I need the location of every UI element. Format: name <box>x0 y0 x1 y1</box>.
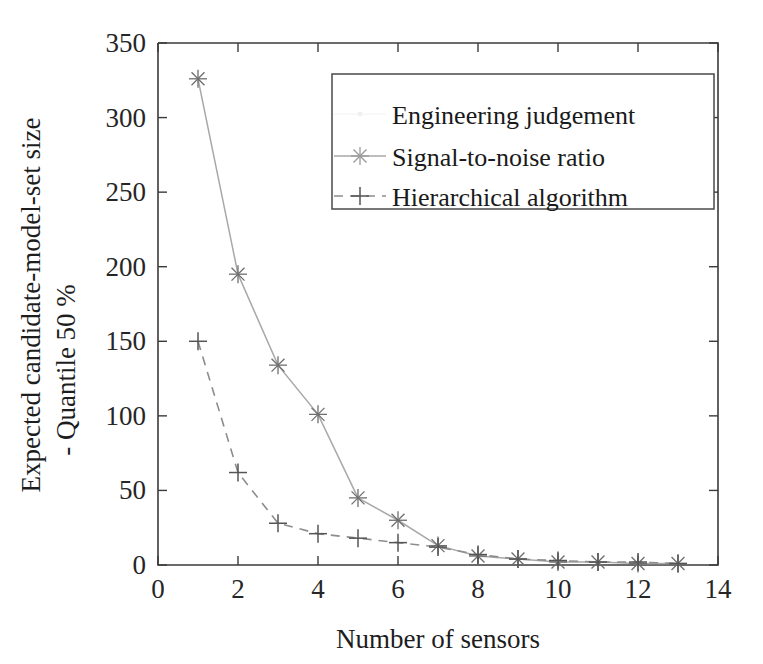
y-tick-label: 200 <box>106 252 147 282</box>
y-tick-label: 300 <box>106 103 147 133</box>
y-tick-label: 100 <box>106 401 147 431</box>
x-tick-label: 8 <box>471 574 485 604</box>
x-tick-label: 2 <box>231 574 245 604</box>
figure-container: 02468101214 050100150200250300350 Number… <box>0 0 763 664</box>
series-2 <box>189 332 687 572</box>
chart-legend[interactable]: Engineering judgementSignal-to-noise rat… <box>332 74 714 212</box>
y-tick-label: 250 <box>106 177 147 207</box>
x-tick-label: 6 <box>391 574 405 604</box>
y-tick-label: 350 <box>106 28 147 58</box>
y-tick-label: 50 <box>119 475 146 505</box>
y-axis-tick-labels: 050100150200250300350 <box>106 28 147 580</box>
y-tick-label: 0 <box>133 550 147 580</box>
y-axis-title-line2: - Quantile 50 % <box>51 284 81 456</box>
series-line <box>198 341 678 563</box>
legend-label: Engineering judgement <box>392 101 636 130</box>
x-tick-label: 0 <box>151 574 165 604</box>
x-axis-tick-labels: 02468101214 <box>151 574 732 604</box>
x-tick-label: 14 <box>705 574 733 604</box>
x-tick-label: 4 <box>311 574 325 604</box>
x-tick-label: 10 <box>545 574 572 604</box>
x-axis-title: Number of sensors <box>336 624 540 654</box>
y-axis-title-line1: Expected candidate-model-set size <box>16 118 46 493</box>
chart-canvas: 02468101214 050100150200250300350 Number… <box>0 0 763 664</box>
y-tick-label: 150 <box>106 326 147 356</box>
legend-label: Hierarchical algorithm <box>392 183 628 212</box>
legend-marker-engineering <box>358 112 363 117</box>
legend-label: Signal-to-noise ratio <box>392 143 605 172</box>
x-tick-label: 12 <box>625 574 652 604</box>
